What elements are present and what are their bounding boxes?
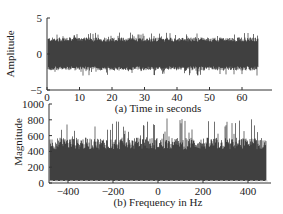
figure: −505 0102030405060 Amplitude (a) Time in… (0, 0, 283, 214)
time-signal (48, 33, 258, 76)
time-plot: −505 0102030405060 Amplitude (a) Time in… (4, 12, 272, 115)
time-signal-trace (48, 33, 258, 76)
frequency-y-tick-label: 800 (28, 114, 45, 126)
time-x-tick-label: 10 (74, 91, 86, 103)
time-x-tick-label: 50 (204, 91, 216, 103)
frequency-y-label: Magnitude (12, 118, 24, 166)
time-y-tick-label: 5 (37, 12, 43, 24)
frequency-y-tick-label: 600 (28, 130, 45, 142)
frequency-plot: 02004006008001000 −400−2000200400 Magnit… (12, 98, 271, 209)
time-y-tick-label: −5 (30, 84, 42, 96)
frequency-x-title: (b) Frequency in Hz (114, 196, 203, 209)
time-y-tick-label: 0 (37, 48, 43, 60)
time-x-title: (a) Time in seconds (115, 102, 201, 115)
frequency-y-tick-label: 0 (39, 177, 45, 189)
time-x-tick-label: 60 (237, 91, 249, 103)
frequency-y-tick-label: 200 (28, 161, 45, 173)
frequency-y-tick-label: 1000 (22, 98, 45, 110)
frequency-spectrum (50, 119, 270, 182)
frequency-y-tick-label: 400 (28, 145, 45, 157)
frequency-x-tick-label: −400 (57, 185, 80, 197)
frequency-x-tick-label: 400 (240, 185, 257, 197)
frequency-spectrum-trace (50, 119, 266, 182)
time-y-label: Amplitude (4, 30, 16, 77)
time-x-tick-label: 0 (44, 91, 50, 103)
